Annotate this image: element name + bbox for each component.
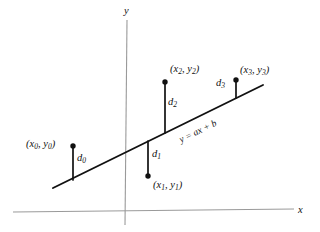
x-axis-label: x <box>298 205 303 216</box>
point-label-p3: (x3, y3) <box>240 65 269 76</box>
x-axis <box>13 209 294 212</box>
figure-canvas <box>0 0 320 232</box>
point-label-p0: (x0, y0) <box>26 139 55 150</box>
y-axis <box>125 20 127 225</box>
regression-figure: y x (x0, y0) (x1, y1) (x2, y2) (x3, y3) … <box>0 0 320 232</box>
regression-line <box>53 85 263 188</box>
residual-label-d2: d2 <box>168 97 177 108</box>
point-label-p2: (x2, y2) <box>170 64 199 75</box>
data-point-p3 <box>233 77 238 82</box>
residual-label-d0: d0 <box>77 153 86 164</box>
residual-label-d1: d1 <box>152 149 161 160</box>
data-point-p1 <box>145 173 150 178</box>
point-label-p1: (x1, y1) <box>153 180 182 191</box>
data-point-p0 <box>70 143 75 148</box>
residual-label-d3: d3 <box>216 78 225 89</box>
data-point-p2 <box>162 79 167 84</box>
y-axis-label: y <box>124 6 129 17</box>
